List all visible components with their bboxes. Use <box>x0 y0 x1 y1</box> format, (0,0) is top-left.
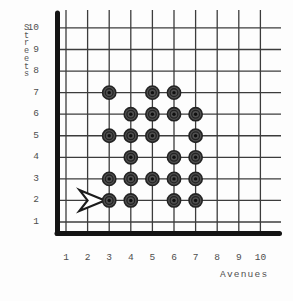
dot-center <box>172 91 175 94</box>
avenue-tick-label: 4 <box>120 252 142 264</box>
dot-center <box>129 113 132 116</box>
intersection-dot <box>189 151 202 164</box>
intersection-dot <box>124 172 137 185</box>
street-tick-label: 5 <box>17 130 39 142</box>
avenue-tick-label: 1 <box>55 252 77 264</box>
street-tick-label: 7 <box>17 87 39 99</box>
intersection-dot <box>103 86 116 99</box>
dot-center <box>129 199 132 202</box>
dot-center <box>151 134 154 137</box>
avenue-tick-label: 5 <box>141 252 163 264</box>
intersection-dot <box>146 129 159 142</box>
street-tick-label: 1 <box>17 216 39 228</box>
dot-center <box>108 91 111 94</box>
street-tick-label: 8 <box>17 65 39 77</box>
intersection-dot <box>124 129 137 142</box>
dot-center <box>108 134 111 137</box>
dot-center <box>172 177 175 180</box>
dot-center <box>151 91 154 94</box>
dot-center <box>129 177 132 180</box>
intersection-dot <box>146 86 159 99</box>
dot-center <box>129 134 132 137</box>
intersection-dot <box>189 129 202 142</box>
intersection-dot <box>189 108 202 121</box>
dot-center <box>172 199 175 202</box>
intersection-dot <box>167 194 180 207</box>
dot-center <box>194 199 197 202</box>
dot-center <box>108 199 111 202</box>
street-tick-label: 3 <box>17 173 39 185</box>
intersection-dot <box>167 172 180 185</box>
x-axis-label: Avenues <box>220 269 268 280</box>
street-tick-label: 2 <box>17 194 39 206</box>
street-tick-label: 10 <box>17 22 39 34</box>
intersection-dot <box>167 151 180 164</box>
intersection-dot <box>189 194 202 207</box>
intersection-dot <box>146 172 159 185</box>
intersection-dot <box>167 108 180 121</box>
dot-center <box>151 113 154 116</box>
dot-center <box>194 156 197 159</box>
intersection-dot <box>189 172 202 185</box>
intersection-dot <box>146 108 159 121</box>
intersection-dot <box>124 108 137 121</box>
avenue-tick-label: 2 <box>77 252 99 264</box>
intersection-dot <box>167 86 180 99</box>
intersection-dot <box>103 129 116 142</box>
dot-center <box>194 177 197 180</box>
dot-center <box>151 177 154 180</box>
dot-center <box>172 113 175 116</box>
avenue-tick-label: 7 <box>185 252 207 264</box>
street-tick-label: 6 <box>17 108 39 120</box>
dot-center <box>129 156 132 159</box>
dot-center <box>172 156 175 159</box>
avenue-tick-label: 8 <box>206 252 228 264</box>
intersection-dot <box>103 194 116 207</box>
street-avenue-grid-figure: Streets 12345678910 12345678910 Avenues <box>0 0 293 301</box>
dot-center <box>194 113 197 116</box>
street-tick-label: 4 <box>17 151 39 163</box>
avenue-tick-label: 10 <box>249 252 271 264</box>
intersection-dot <box>124 194 137 207</box>
avenue-tick-label: 6 <box>163 252 185 264</box>
dot-center <box>194 134 197 137</box>
intersection-dot <box>103 172 116 185</box>
dot-center <box>108 177 111 180</box>
intersection-dot <box>124 151 137 164</box>
street-tick-label: 9 <box>17 44 39 56</box>
avenue-tick-label: 3 <box>98 252 120 264</box>
avenue-tick-label: 9 <box>228 252 250 264</box>
